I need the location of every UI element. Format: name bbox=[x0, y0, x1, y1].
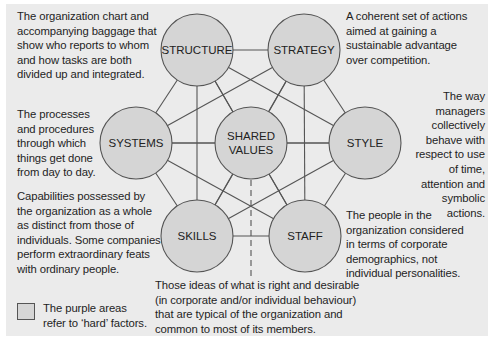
node-label: SHARED bbox=[227, 130, 275, 142]
node-staff: STAFF bbox=[269, 200, 341, 272]
node-label: STAFF bbox=[287, 230, 323, 242]
node-label: STYLE bbox=[347, 137, 384, 149]
style-description: The way managers collectively behave wit… bbox=[415, 89, 485, 220]
systems-description: The processes and procedures through whi… bbox=[17, 107, 96, 180]
node-label: STRUCTURE bbox=[162, 44, 233, 56]
node-systems: SYSTEMS bbox=[100, 107, 172, 179]
node-label: SKILLS bbox=[178, 230, 217, 242]
staff-description: The people in the organization considere… bbox=[346, 208, 464, 281]
structure-description: The organization chart and accompanying … bbox=[17, 9, 156, 82]
strategy-description: A coherent set of actions aimed at gaini… bbox=[346, 9, 467, 67]
node-style: STYLE bbox=[329, 107, 401, 179]
node-label: VALUES bbox=[229, 144, 274, 156]
legend-text: The purple areas refer to ‘hard’ factors… bbox=[43, 301, 147, 330]
node-label: SYSTEMS bbox=[109, 137, 164, 149]
node-structure: STRUCTURE bbox=[161, 14, 233, 86]
node-skills: SKILLS bbox=[161, 200, 233, 272]
skills-description: Capabilities possessed by the organizati… bbox=[17, 189, 161, 277]
node-shared-values: SHAREDVALUES bbox=[215, 107, 287, 179]
node-strategy: STRATEGY bbox=[268, 14, 340, 86]
legend-swatch bbox=[17, 303, 35, 320]
node-label: STRATEGY bbox=[273, 44, 334, 56]
shared-values-description: Those ideas of what is right and desirab… bbox=[155, 278, 359, 336]
